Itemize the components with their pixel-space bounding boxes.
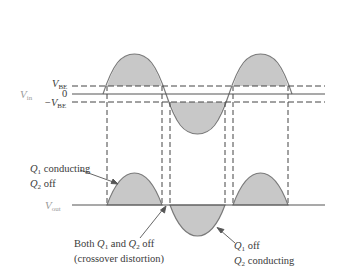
- q2-conducting-annotation: Q1 off Q2 conducting: [234, 240, 294, 270]
- crossover-distortion-annotation: Both Q1 and Q2 off (crossover distortion…: [74, 238, 164, 265]
- neg-vbe-label: −VBE: [45, 97, 66, 112]
- output-hump-q1-2: [233, 173, 288, 205]
- input-shade-negative: [170, 102, 225, 134]
- q1-conducting-annotation: Q1 conducting Q2 off: [30, 163, 90, 193]
- output-hump-q2: [170, 205, 225, 236]
- vin-label: Vin: [20, 88, 32, 104]
- input-shade-positive-1: [107, 54, 162, 86]
- vout-label: Vout: [45, 199, 61, 215]
- output-hump-q1-1: [107, 173, 162, 205]
- waveform-diagram: [0, 0, 340, 273]
- input-shade-positive-2: [233, 54, 288, 86]
